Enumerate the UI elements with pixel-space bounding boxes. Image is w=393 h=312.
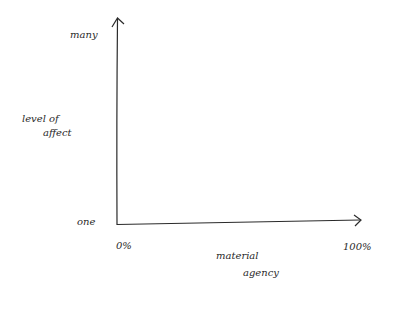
y-max-label: many: [70, 29, 98, 40]
y-axis-label-line2: affect: [43, 127, 72, 138]
x-axis: [117, 220, 360, 225]
y-axis-label-line1: level of: [22, 113, 59, 124]
axes: [0, 0, 393, 312]
y-axis: [117, 19, 118, 225]
y-min-label: one: [77, 216, 95, 227]
x-axis-label-line1: material: [216, 250, 259, 261]
x-axis-label-line2: agency: [243, 267, 279, 278]
x-max-label: 100%: [343, 241, 372, 252]
x-min-label: 0%: [116, 240, 132, 251]
